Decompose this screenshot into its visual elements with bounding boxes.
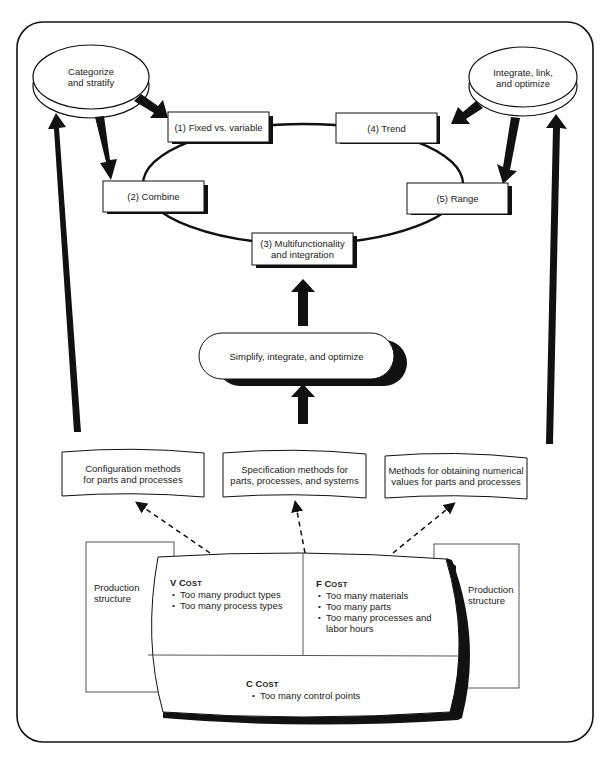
- simplify-pill-label: Simplify, integrate, and optimize: [199, 351, 394, 362]
- v-cost-word-initial: C: [179, 577, 186, 588]
- integrate-line1: Integrate, link,: [482, 67, 564, 78]
- configuration-line2: for parts and processes: [62, 474, 204, 485]
- cycle-step-multifunctionality: (3) Multifunctionality and integration: [252, 238, 353, 260]
- categorize-line1: Categorize: [50, 66, 132, 77]
- integrate-line2: and optimize: [482, 78, 564, 89]
- cycle-step-fixed-variable: (1) Fixed vs. variable: [168, 122, 269, 133]
- c-cost-list: Too many control points: [250, 690, 360, 701]
- c-cost-heading: C COST: [246, 678, 360, 690]
- v-cost-panel: V COST Too many product types Too many p…: [170, 577, 282, 611]
- production-right-line2: structure: [468, 595, 513, 606]
- v-cost-letter: V: [170, 577, 176, 588]
- specification-line1: Specification methods for: [223, 464, 366, 475]
- production-structure-right-label: Production structure: [468, 584, 513, 606]
- numerical-line1: Methods for obtaining numerical: [385, 465, 527, 476]
- production-left-line2: structure: [94, 593, 139, 604]
- configuration-line1: Configuration methods: [62, 463, 204, 474]
- v-cost-list: Too many product types Too many process …: [170, 589, 282, 611]
- production-structure-left-label: Production structure: [94, 582, 139, 604]
- list-item: Too many control points: [250, 690, 360, 701]
- production-left-line1: Production: [94, 582, 139, 593]
- multifunctionality-line1: (3) Multifunctionality: [252, 238, 353, 249]
- list-item: Too many parts: [316, 601, 436, 612]
- f-cost-list: Too many materials Too many parts Too ma…: [316, 590, 436, 634]
- multifunctionality-line2: and integration: [252, 249, 353, 260]
- dashed-arrows: [140, 505, 451, 553]
- f-cost-letter: F: [316, 578, 322, 589]
- f-cost-panel: F COST Too many materials Too many parts…: [316, 578, 436, 634]
- c-cost-letter: C: [246, 678, 253, 689]
- method-numerical: Methods for obtaining numerical values f…: [385, 465, 527, 487]
- diagram-canvas: [0, 0, 607, 759]
- f-cost-heading: F COST: [316, 578, 436, 590]
- c-cost-panel: C COST Too many control points: [246, 678, 360, 701]
- categorize-label: Categorize and stratify: [50, 66, 132, 88]
- v-cost-heading: V COST: [170, 577, 282, 589]
- method-configuration: Configuration methods for parts and proc…: [62, 463, 204, 485]
- cycle-step-range: (5) Range: [407, 193, 508, 204]
- v-cost-word-rest: OST: [186, 579, 202, 588]
- numerical-line2: values for parts and processes: [385, 476, 527, 487]
- specification-line2: parts, processes, and systems: [223, 475, 366, 486]
- list-item: Too many process types: [170, 600, 282, 611]
- production-right-line1: Production: [468, 584, 513, 595]
- cycle-step-combine: (2) Combine: [103, 191, 204, 202]
- f-cost-word-rest: OST: [331, 580, 347, 589]
- list-item: Too many product types: [170, 589, 282, 600]
- method-specification: Specification methods for parts, process…: [223, 464, 366, 486]
- thick-arrows: [48, 94, 567, 444]
- cycle-step-trend: (4) Trend: [336, 123, 437, 134]
- c-cost-word-rest: OST: [262, 680, 278, 689]
- integrate-label: Integrate, link, and optimize: [482, 67, 564, 89]
- list-item: Too many processes and labor hours: [316, 612, 436, 634]
- categorize-line2: and stratify: [50, 77, 132, 88]
- list-item: Too many materials: [316, 590, 436, 601]
